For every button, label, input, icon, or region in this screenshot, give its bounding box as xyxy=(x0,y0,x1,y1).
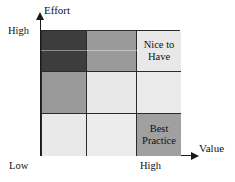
matrix-cell-medium-effort-low-value xyxy=(42,72,87,114)
x-axis-arrow-icon xyxy=(191,152,199,160)
x-axis-title: Value xyxy=(199,142,224,154)
matrix-cell-low-effort-low-value xyxy=(42,114,87,156)
matrix-cell-medium-effort-high-value xyxy=(137,72,181,114)
y-axis-arrow-icon xyxy=(36,12,44,20)
matrix-cell-low-effort-medium-value xyxy=(87,114,137,156)
matrix-cell-low-effort-high-value: Best Practice xyxy=(137,114,181,156)
matrix-cell-medium-effort-medium-value xyxy=(87,72,137,114)
effort-value-matrix-chart: Effort Value High Low High Nice to Have xyxy=(0,0,235,182)
x-axis-tick-low: Low xyxy=(9,160,28,171)
nice-to-have-label: Nice to Have xyxy=(137,39,181,63)
y-axis-title: Effort xyxy=(44,4,70,16)
matrix-grid: Nice to Have Best Practice xyxy=(41,30,180,155)
matrix-cell-high-effort-low-value xyxy=(42,31,87,72)
best-practice-label: Best Practice xyxy=(137,123,181,147)
matrix-cell-high-effort-medium-value xyxy=(87,31,137,72)
y-axis-tick-high: High xyxy=(8,25,29,36)
x-axis-tick-high: High xyxy=(140,160,161,171)
matrix-cell-high-effort-high-value: Nice to Have xyxy=(137,31,181,72)
